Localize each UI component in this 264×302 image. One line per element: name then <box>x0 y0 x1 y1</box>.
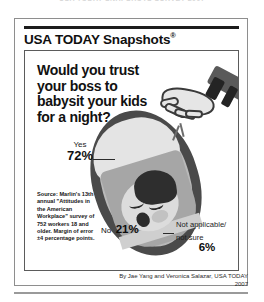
callout-na-leader-line <box>163 233 174 234</box>
callout-no-value: 21% <box>116 223 139 235</box>
snapshot-panel: Would you trust your boss to babysit you… <box>24 50 239 271</box>
byline-year: 2007 <box>119 280 248 288</box>
callout-yes: Yes 72% <box>67 141 93 163</box>
callout-not-applicable: Not applicable/ not sure 6% <box>176 217 238 253</box>
callout-no: No 21% <box>101 219 139 237</box>
registered-mark: ® <box>170 31 175 40</box>
callout-yes-leader-line <box>93 159 115 160</box>
byline-credit: By Jae Yang and Veronica Salazar, USA TO… <box>119 273 248 279</box>
callout-yes-value: 72% <box>67 149 93 163</box>
hand-finger-3 <box>185 110 203 119</box>
bottom-rule <box>14 292 248 294</box>
top-caption-strip: USA TODAY SNAPSHOTS SURVEY 2007 <box>0 0 264 12</box>
brand-wordmark: USA TODAY Snapshots® <box>24 31 176 47</box>
page-title: Would you trust your boss to babysit you… <box>37 63 161 125</box>
source-note: Source: Marlin's 13th annual "Attitudes … <box>37 191 99 243</box>
callout-no-label: No <box>101 226 111 235</box>
brand-rule <box>24 26 239 29</box>
callout-na-label-line1: Not applicable/ <box>176 220 226 229</box>
byline: By Jae Yang and Veronica Salazar, USA TO… <box>119 272 248 288</box>
top-caption-text: USA TODAY SNAPSHOTS SURVEY 2007 <box>59 0 205 2</box>
brand-name: USA TODAY Snapshots <box>24 32 170 47</box>
callout-na-value: 6% <box>176 243 238 253</box>
baby-eye-left <box>128 198 145 210</box>
